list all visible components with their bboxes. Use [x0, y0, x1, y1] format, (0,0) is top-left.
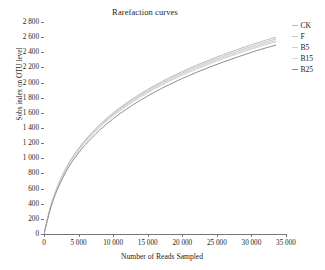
legend-item-b15[interactable]: B15	[292, 53, 325, 64]
chart-title: Rarefaction curves	[0, 7, 290, 17]
x-tick-mark	[113, 234, 114, 237]
series-line-f	[44, 39, 276, 234]
y-tick-label: 0	[35, 230, 39, 238]
y-tick-label: 2 200	[23, 63, 39, 71]
x-tick-mark	[251, 234, 252, 237]
x-tick-mark	[182, 234, 183, 237]
legend-line-icon	[292, 69, 298, 70]
y-tick-label: 600	[28, 185, 39, 193]
legend-label: F	[301, 33, 305, 41]
x-tick-mark	[286, 234, 287, 237]
curve-series-group	[44, 22, 286, 234]
legend-label: B25	[301, 66, 314, 74]
x-tick-label: 5 000	[70, 239, 86, 247]
y-tick-label: 2 000	[23, 79, 39, 87]
legend-item-b25[interactable]: B25	[292, 64, 325, 75]
x-tick-mark	[44, 234, 45, 237]
y-tick-label: 2 600	[23, 33, 39, 41]
legend-label: B15	[301, 55, 314, 63]
legend-line-icon	[292, 25, 298, 26]
x-tick-label: 30 000	[242, 239, 262, 247]
legend-label: CK	[301, 22, 312, 30]
x-tick-label: 15 000	[138, 239, 158, 247]
legend-line-icon	[292, 36, 298, 37]
series-line-ck	[44, 37, 276, 234]
series-line-b5	[44, 41, 276, 234]
legend-item-ck[interactable]: CK	[292, 20, 325, 31]
legend-label: B5	[301, 44, 310, 52]
y-tick-label: 800	[28, 169, 39, 177]
legend: CKFB5B15B25	[292, 20, 325, 75]
x-tick-label: 20 000	[172, 239, 192, 247]
x-tick-label: 10 000	[103, 239, 123, 247]
x-axis-title: Number of Reads Sampled	[38, 252, 286, 261]
legend-line-icon	[292, 58, 298, 59]
plot-area: 02004006008001 0001 2001 4001 6001 8002 …	[44, 22, 286, 234]
y-tick-label: 1 200	[23, 139, 39, 147]
series-line-b15	[44, 42, 276, 234]
legend-item-f[interactable]: F	[292, 31, 325, 42]
y-tick-label: 1 000	[23, 154, 39, 162]
x-tick-mark	[217, 234, 218, 237]
y-tick-label: 2 800	[23, 18, 39, 26]
legend-line-icon	[292, 47, 298, 48]
x-tick-label: 25 000	[207, 239, 227, 247]
y-tick-label: 2 400	[23, 48, 39, 56]
legend-item-b5[interactable]: B5	[292, 42, 325, 53]
y-tick-label: 200	[28, 215, 39, 223]
x-tick-label: 35 000	[276, 239, 296, 247]
series-line-b25	[44, 45, 276, 234]
x-tick-mark	[79, 234, 80, 237]
rarefaction-chart: Rarefaction curves Sobs index on OTU lev…	[0, 0, 325, 270]
y-tick-label: 1 400	[23, 124, 39, 132]
y-tick-label: 1 600	[23, 109, 39, 117]
y-tick-label: 1 800	[23, 94, 39, 102]
x-tick-mark	[148, 234, 149, 237]
y-tick-label: 400	[28, 200, 39, 208]
x-tick-label: 0	[42, 239, 46, 247]
